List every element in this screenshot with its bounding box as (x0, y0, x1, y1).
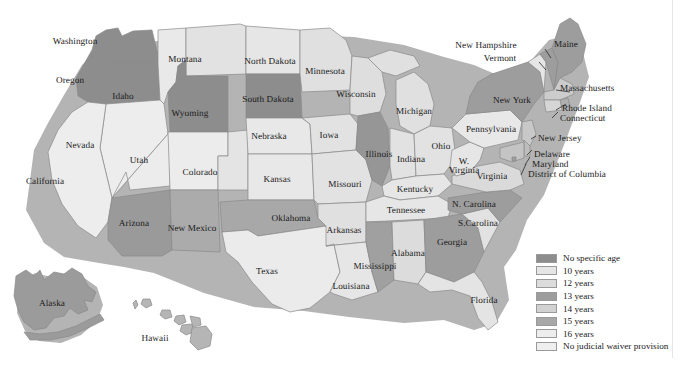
state-montana (186, 24, 246, 76)
state-label-iowa: Iowa (320, 131, 339, 140)
state-label-illinois: Illinois (366, 150, 393, 159)
state-label-montana: Montana (168, 55, 201, 64)
callout-label-new-hampshire: New Hampshire (455, 41, 516, 50)
callout-label-connecticut: Connecticut (560, 114, 606, 123)
wv-line2: Virginia (449, 165, 480, 175)
legend-label-16-years: 16 years (563, 329, 594, 339)
state-label-alaska: Alaska (39, 299, 65, 308)
legend-label-12-years: 12 years (563, 278, 594, 288)
hawaii-island-3 (160, 310, 172, 319)
callout-label-delaware: Delaware (534, 150, 570, 159)
state-label-oregon: Oregon (56, 76, 84, 85)
map-figure: Washington Oregon Idaho Montana Wyoming … (0, 0, 692, 372)
state-missouri (312, 150, 372, 204)
callout-label-massachusetts: Massachusetts (560, 84, 614, 93)
state-label-texas: Texas (256, 267, 278, 276)
callout-label-district-of-columbia: District of Columbia (528, 170, 606, 179)
figure-caption-clipped (150, 361, 580, 369)
state-label-south-carolina: S.Carolina (458, 219, 498, 228)
map-legend: No specific age 10 years 12 years 13 yea… (536, 252, 668, 353)
state-label-arkansas: Arkansas (327, 226, 362, 235)
state-label-arizona: Arizona (119, 219, 149, 228)
state-label-idaho: Idaho (112, 92, 133, 101)
legend-label-14-years: 14 years (563, 304, 594, 314)
legend-row-no-specific-age: No specific age (536, 252, 668, 265)
state-label-tennessee: Tennessee (387, 206, 426, 215)
legend-swatch-12-years (536, 279, 557, 288)
state-new-mexico (170, 190, 220, 252)
callout-label-new-jersey: New Jersey (538, 134, 582, 143)
state-label-alabama: Alabama (391, 249, 425, 258)
state-label-virginia: Virginia (477, 172, 508, 181)
state-label-maine: Maine (554, 40, 578, 49)
hawaii-island-2 (141, 299, 152, 308)
state-label-wisconsin: Wisconsin (336, 90, 375, 99)
legend-row-10-years: 10 years (536, 265, 668, 278)
legend-swatch-10-years (536, 266, 557, 275)
state-district-of-columbia (512, 157, 516, 161)
legend-label-13-years: 13 years (563, 291, 594, 301)
legend-row-12-years: 12 years (536, 277, 668, 290)
legend-label-15-years: 15 years (563, 316, 594, 326)
state-label-ohio: Ohio (432, 142, 451, 151)
state-label-georgia: Georgia (437, 238, 467, 247)
legend-row-14-years: 14 years (536, 302, 668, 315)
state-label-california: California (26, 177, 64, 186)
state-label-indiana: Indiana (397, 155, 425, 164)
legend-swatch-no-specific-age (536, 254, 557, 263)
state-label-nevada: Nevada (66, 141, 95, 150)
state-label-new-york: New York (493, 96, 531, 105)
state-label-minnesota: Minnesota (305, 67, 345, 76)
legend-row-no-judicial-waiver-provision: No judicial waiver provision (536, 340, 668, 353)
legend-row-16-years: 16 years (536, 328, 668, 341)
state-label-colorado: Colorado (183, 168, 218, 177)
legend-swatch-16-years (536, 329, 557, 338)
legend-swatch-13-years (536, 292, 557, 301)
state-label-oklahoma: Oklahoma (271, 214, 310, 223)
state-north-dakota (246, 26, 300, 74)
legend-label-10-years: 10 years (563, 266, 594, 276)
state-label-new-mexico: New Mexico (168, 224, 217, 233)
right-hairline (672, 0, 673, 358)
legend-swatch-14-years (536, 304, 557, 313)
state-label-south-dakota: South Dakota (242, 95, 293, 104)
state-label-washington: Washington (53, 37, 98, 46)
state-label-kentucky: Kentucky (397, 185, 434, 194)
legend-row-15-years: 15 years (536, 315, 668, 328)
state-label-pennsylvania: Pennsylvania (466, 125, 516, 134)
state-connecticut (544, 100, 562, 112)
legend-label-no-specific-age: No specific age (563, 253, 620, 263)
state-label-nebraska: Nebraska (251, 132, 287, 141)
legend-swatch-no-judicial-waiver-provision (536, 342, 557, 351)
state-label-louisiana: Louisiana (332, 282, 369, 291)
state-label-mississippi: Mississippi (354, 262, 397, 271)
state-label-north-dakota: North Dakota (244, 57, 295, 66)
legend-label-no-judicial-waiver-provision: No judicial waiver provision (563, 341, 668, 351)
callout-label-maryland: Maryland (532, 160, 569, 169)
state-label-kansas: Kansas (263, 175, 290, 184)
state-label-utah: Utah (130, 156, 148, 165)
legend-row-13-years: 13 years (536, 290, 668, 303)
state-label-north-carolina: N. Carolina (452, 200, 496, 209)
state-label-michigan: Michigan (396, 107, 432, 116)
hawaii-island-1 (133, 300, 138, 309)
hawaii-island-big (190, 326, 212, 350)
callout-label-rhode-island: Rhode Island (562, 104, 612, 113)
state-label-missouri: Missouri (328, 180, 361, 189)
state-label-hawaii: Hawaii (141, 334, 168, 343)
callout-label-vermont: Vermont (484, 54, 516, 63)
state-label-wyoming: Wyoming (172, 109, 209, 118)
state-label-west-virginia: W.Virginia (449, 157, 480, 175)
legend-swatch-15-years (536, 317, 557, 326)
hawaii-island-4 (174, 315, 186, 325)
state-label-florida: Florida (470, 296, 497, 305)
